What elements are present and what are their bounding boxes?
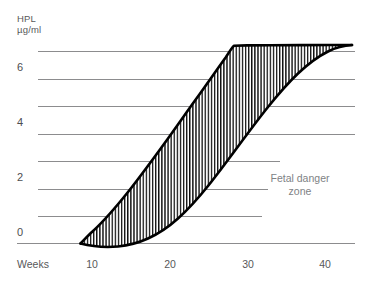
y-axis-title: HPL <box>17 13 36 25</box>
x-axis-title: Weeks <box>17 258 49 270</box>
y-axis-units: µg/ml <box>17 24 41 36</box>
fetal-danger-zone-annotation: Fetal danger zone <box>252 172 348 198</box>
chart-plot-area <box>0 0 372 289</box>
x-tick-10: 10 <box>72 258 112 270</box>
hpl-pregnancy-chart: HPL µg/ml 6 4 2 0 Weeks 10 20 30 40 Feta… <box>0 0 372 289</box>
y-tick-6: 6 <box>17 61 23 73</box>
y-tick-4: 4 <box>17 116 23 128</box>
x-tick-30: 30 <box>228 258 268 270</box>
x-tick-20: 20 <box>150 258 190 270</box>
x-tick-40: 40 <box>305 258 345 270</box>
y-tick-2: 2 <box>17 171 23 183</box>
y-tick-0: 0 <box>17 226 23 238</box>
